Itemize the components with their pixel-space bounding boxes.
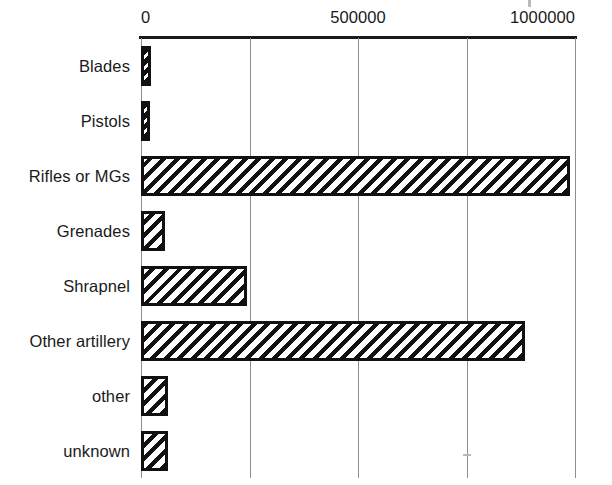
plot-area [141,38,575,478]
category-label-unknown: unknown [63,441,130,460]
bar-rifles-or-mgs [141,156,570,196]
bar-pistols [141,101,150,141]
category-label-other-artillery: Other artillery [29,331,130,350]
bar-blades [141,46,151,86]
category-label-rifles-or-mgs: Rifles or MGs [29,166,130,185]
category-label-blades: Blades [79,56,130,75]
scan-artifact-bottom [463,454,471,456]
category-label-pistols: Pistols [81,111,130,130]
x-tick-label-500000: 500000 [330,8,386,27]
gridline-1000000 [575,38,576,478]
category-label-shrapnel: Shrapnel [63,276,130,295]
gridline-250000 [250,38,251,478]
category-label-other: other [92,386,130,405]
gridline-500000 [358,38,359,478]
bar-grenades [141,211,165,251]
bar-shrapnel [141,266,247,306]
x-tick-label-1000000: 1000000 [510,8,575,27]
bar-other-artillery [141,321,525,361]
gridline-750000 [467,38,468,478]
bar-other [141,376,168,416]
x-tick-label-0: 0 [141,8,150,27]
bar-unknown [141,431,168,471]
scan-artifact-top [528,0,531,7]
bar-chart: 0 500000 1000000 BladesPistolsRifles or … [0,0,612,485]
category-label-grenades: Grenades [57,221,130,240]
